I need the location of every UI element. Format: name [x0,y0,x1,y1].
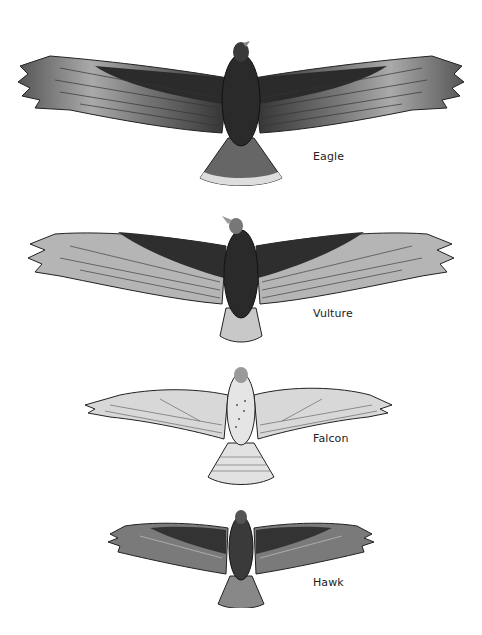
eagle-label: Eagle [313,150,344,163]
vulture-silhouette-icon [28,216,454,342]
eagle-silhouette-icon [18,41,464,186]
eagle-illustration [0,38,482,190]
falcon-silhouette-icon [85,367,392,485]
falcon-illustration [0,365,482,490]
hawk-label: Hawk [313,576,344,589]
vulture-label: Vulture [313,307,353,320]
hawk-illustration [0,508,482,608]
falcon-label: Falcon [313,432,348,445]
vulture-illustration [0,208,482,343]
hawk-silhouette-icon [108,510,374,608]
